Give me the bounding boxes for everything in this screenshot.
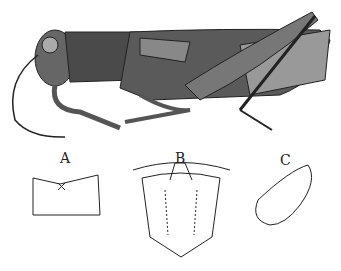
label-c: C (280, 152, 291, 168)
hind-tarsus (240, 110, 272, 130)
figure-c-outline (256, 165, 312, 225)
grasshopper-illustration (0, 0, 341, 271)
figure-a-outline (33, 175, 100, 215)
label-a: A (60, 150, 70, 166)
front-leg (54, 85, 120, 128)
eye (42, 37, 58, 53)
label-b: B (175, 150, 185, 166)
